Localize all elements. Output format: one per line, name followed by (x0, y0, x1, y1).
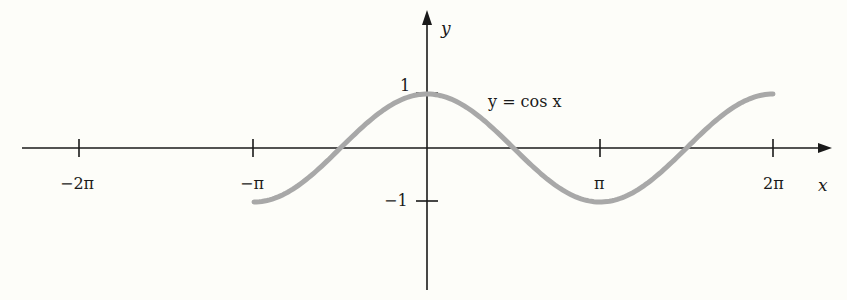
y-tick-label-neg1: −1 (384, 191, 408, 210)
x-axis-label: x (818, 175, 828, 195)
y-tick-label-1: 1 (400, 76, 410, 95)
y-axis-arrow-icon (422, 10, 432, 25)
cosine-plot: y x 1 −1 −2π −π π 2π y = cos x (0, 0, 847, 300)
x-tick-label-2pi: 2π (763, 174, 784, 193)
x-tick-label-neg2pi: −2π (60, 174, 94, 193)
y-axis-label: y (440, 18, 451, 38)
x-tick-label-negpi: −π (240, 174, 264, 193)
x-tick-label-pi: π (594, 174, 605, 193)
curve-annotation: y = cos x (487, 92, 562, 111)
x-axis-arrow-icon (818, 143, 832, 153)
